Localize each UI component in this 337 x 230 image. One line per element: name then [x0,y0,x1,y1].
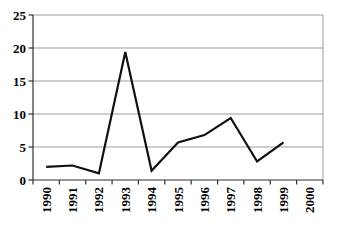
y-axis-tick-label: 0 [20,173,27,188]
x-axis-tick-label: 1999 [276,187,291,214]
x-axis-tick-label: 1995 [171,187,186,214]
chart-container: 0510152025199019911992199319941995199619… [0,0,337,230]
x-axis-tick-label: 1997 [223,187,238,214]
x-axis-tick-label: 1990 [39,187,54,213]
x-axis-tick-label: 1993 [118,187,133,214]
line-chart: 0510152025199019911992199319941995199619… [0,0,337,230]
y-axis-tick-label: 20 [13,41,26,56]
x-axis-tick-label: 1991 [65,187,80,213]
x-axis-tick-label: 1996 [197,187,212,214]
y-axis-tick-label: 10 [13,107,26,122]
x-axis-tick-label: 1992 [91,187,106,213]
x-axis-tick-label: 1994 [144,187,159,214]
y-axis-tick-label: 5 [20,140,27,155]
y-axis-tick-label: 25 [13,8,27,23]
x-axis-tick-label: 2000 [302,187,317,213]
data-line [46,52,283,173]
y-axis-tick-label: 15 [13,74,27,89]
x-axis-tick-label: 1998 [250,187,265,214]
